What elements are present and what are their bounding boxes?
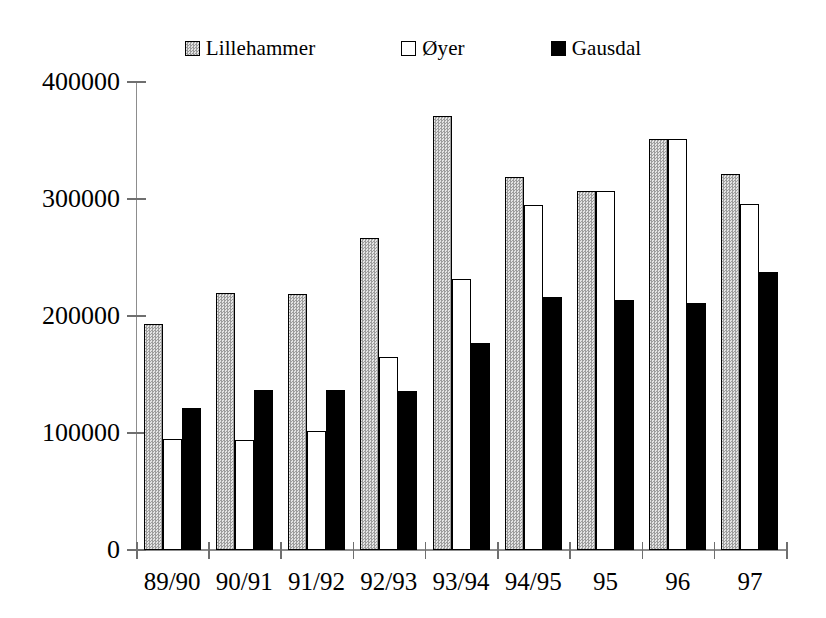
- bar: [216, 293, 235, 550]
- bar: [505, 177, 524, 550]
- bar: [759, 272, 778, 550]
- legend-label-gausdal: Gausdal: [572, 38, 642, 59]
- chart-legend: Lillehammer Øyer Gausdal: [0, 38, 826, 59]
- bar: [288, 294, 307, 550]
- bar: [307, 431, 326, 550]
- y-axis-tick-label: 200000: [2, 303, 120, 329]
- x-axis-tick-label: 89/90: [136, 568, 208, 596]
- bar: [543, 297, 562, 550]
- legend-swatch-oyer-icon: [401, 41, 416, 56]
- bar-chart: Lillehammer Øyer Gausdal 400000300000200…: [0, 0, 826, 618]
- legend-label-oyer: Øyer: [422, 38, 464, 59]
- bar: [398, 391, 417, 550]
- bar: [379, 357, 398, 550]
- legend-item-oyer: Øyer: [401, 38, 464, 59]
- x-axis-tick-label: 97: [714, 568, 786, 596]
- legend-swatch-lillehammer-icon: [185, 41, 200, 56]
- bar: [615, 300, 634, 550]
- bar: [649, 139, 668, 550]
- x-axis-tick-label: 94/95: [497, 568, 569, 596]
- bar: [524, 205, 543, 550]
- bar: [471, 343, 490, 550]
- legend-item-lillehammer: Lillehammer: [185, 38, 316, 59]
- x-axis-tick-label: 96: [642, 568, 714, 596]
- bar: [360, 238, 379, 550]
- x-axis-tick-label: 90/91: [208, 568, 280, 596]
- y-axis-tick-label: 300000: [2, 186, 120, 212]
- bar: [144, 324, 163, 550]
- bar: [433, 116, 452, 550]
- bar: [326, 390, 345, 550]
- bar: [163, 439, 182, 550]
- bar: [254, 390, 273, 550]
- plot-area: [136, 82, 786, 550]
- y-axis-tick-label: 0: [2, 537, 120, 563]
- bar: [577, 191, 596, 550]
- y-axis-tick-label: 100000: [2, 420, 120, 446]
- legend-label-lillehammer: Lillehammer: [206, 38, 316, 59]
- bar: [687, 303, 706, 550]
- bar: [740, 204, 759, 550]
- x-axis-tick-label: 95: [569, 568, 641, 596]
- x-axis-tick-label: 92/93: [353, 568, 425, 596]
- bar: [235, 440, 254, 550]
- x-axis-tick-label: 93/94: [425, 568, 497, 596]
- bar: [721, 174, 740, 550]
- legend-item-gausdal: Gausdal: [551, 38, 642, 59]
- bar: [182, 408, 201, 550]
- bar: [668, 139, 687, 550]
- bar: [452, 279, 471, 550]
- y-axis-tick-label: 400000: [2, 69, 120, 95]
- x-axis-tick-label: 91/92: [280, 568, 352, 596]
- bar: [596, 191, 615, 550]
- legend-swatch-gausdal-icon: [551, 41, 566, 56]
- x-axis-tick: [786, 542, 788, 559]
